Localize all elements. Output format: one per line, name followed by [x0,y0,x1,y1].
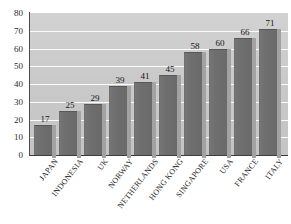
x-axis-label-usa: USA [218,157,235,176]
bar-shadow [177,75,181,158]
bar-value-france: 66 [234,28,256,37]
x-axis-label-uk: UK [96,157,110,172]
x-axis-line [29,155,288,156]
bar-uk[interactable] [84,104,102,156]
bars-layer: 17 25 29 39 41 45 [30,13,288,155]
bar-shadow [52,125,56,158]
y-axis-tick-40: 40 [14,80,23,89]
bar-shadow [227,49,231,159]
x-axis-label-france: FRANCE [233,157,260,188]
bar-value-singapore: 58 [184,42,206,51]
y-axis-tick-70: 70 [14,26,23,35]
bar-shadow [277,29,281,158]
bar-value-netherlands: 41 [134,72,156,81]
x-axis-label-italy: ITALY [263,157,285,181]
bar-shadow [127,86,131,158]
y-axis-tick-20: 20 [14,115,23,124]
bar-shadow [152,82,156,158]
bar-france[interactable] [234,38,252,155]
bar-shadow [202,52,206,158]
x-axis: JAPAN INDONESIA UK NORWAY NETHERLANDS HO… [30,157,288,224]
y-axis-tick-30: 30 [14,97,23,106]
y-axis-tick-80: 80 [14,9,23,18]
bar-value-japan: 17 [34,115,56,124]
bar-shadow [102,104,106,159]
bar-value-usa: 60 [209,39,231,48]
y-axis: 80 70 60 50 40 30 20 10 0 [0,0,26,224]
bar-netherlands[interactable] [134,82,152,155]
bar-shadow [77,111,81,158]
y-axis-tick-60: 60 [14,44,23,53]
bar-value-norway: 39 [109,76,131,85]
y-axis-tick-10: 10 [14,133,23,142]
bar-value-uk: 29 [84,94,106,103]
bar-indonesia[interactable] [59,111,77,155]
y-axis-tick-50: 50 [14,62,23,71]
bar-norway[interactable] [109,86,127,155]
y-axis-tick-0: 0 [19,151,24,160]
bar-value-italy: 71 [259,19,281,28]
bar-japan[interactable] [34,125,52,155]
bar-italy[interactable] [259,29,277,155]
bar-value-hong-kong: 45 [159,65,181,74]
bar-chart: 80 70 60 50 40 30 20 10 0 17 25 [0,0,291,224]
bar-hong-kong[interactable] [159,75,177,155]
x-axis-label-japan: JAPAN [38,157,61,182]
bar-shadow [252,38,256,158]
bar-usa[interactable] [209,49,227,156]
bar-singapore[interactable] [184,52,202,155]
bar-value-indonesia: 25 [59,101,81,110]
